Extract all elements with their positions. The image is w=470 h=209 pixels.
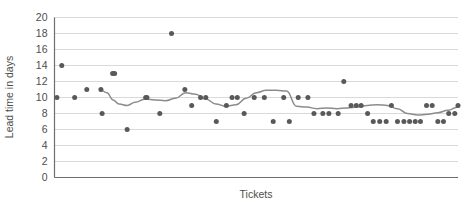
scatter-point [407,119,412,124]
scatter-point [252,95,257,100]
scatter-point [271,119,276,124]
scatter-point [359,103,364,108]
scatter-point [395,119,400,124]
scatter-point [125,127,130,132]
scatter-point [389,103,394,108]
scatter-point [456,103,461,108]
scatter-point [189,103,194,108]
scatter-point [157,111,162,116]
scatter-point [214,119,219,124]
scatter-point [169,31,174,36]
chart-canvas: 02468101214161820 Lead time in days Tick… [0,0,470,209]
scatter-point [59,63,64,68]
scatter-point [354,103,359,108]
scatter-point [401,119,406,124]
scatter-point [341,79,346,84]
scatter-point [349,103,354,108]
scatter-point [413,119,418,124]
y-axis-tick-label: 0 [42,171,48,183]
y-axis-tick-label: 12 [36,75,48,87]
scatter-point [84,87,89,92]
scatter-point [311,111,316,116]
scatter-point [182,87,187,92]
scatter-point [326,111,331,116]
trend-line-series [101,90,458,115]
scatter-point [262,95,267,100]
y-axis-tick-label: 18 [36,27,48,39]
scatter-point [203,95,208,100]
scatter-point [230,95,235,100]
y-axis-tick-label: 20 [36,11,48,23]
scatter-point [418,119,423,124]
scatter-point [287,119,292,124]
scatter-point [336,111,341,116]
scatter-point [54,95,59,100]
y-axis-tick-label: 6 [42,123,48,135]
scatter-point [100,111,105,116]
scatter-point [235,95,240,100]
scatter-point [144,95,149,100]
y-axis-tick-label: 2 [42,155,48,167]
y-axis-tick-label: 10 [36,91,48,103]
scatter-point [377,119,382,124]
scatter-point [371,119,376,124]
x-axis-title: Tickets [240,188,273,200]
scatter-point [72,95,77,100]
scatter-point [320,111,325,116]
scatter-point [452,111,457,116]
gridlines [55,18,459,162]
y-axis-tick-label: 14 [36,59,48,71]
y-axis-tick-label: 4 [42,139,48,151]
scatter-point [198,95,203,100]
scatter-point [281,95,286,100]
scatter-point [430,103,435,108]
scatter-point [441,119,446,124]
y-axis-tick-label: 8 [42,107,48,119]
scatter-point [365,111,370,116]
scatter-point [98,87,103,92]
y-axis-tick-label: 16 [36,43,48,55]
scatter-point [224,103,229,108]
scatter-point [112,71,117,76]
scatter-point [384,119,389,124]
scatter-chart: 02468101214161820 Lead time in days Tick… [0,0,470,209]
scatter-point [446,111,451,116]
scatter-point [296,95,301,100]
scatter-point [435,119,440,124]
scatter-point [424,103,429,108]
trend-line-path [101,90,458,115]
y-axis-tick-labels: 02468101214161820 [36,11,48,183]
y-axis-title: Lead time in days [3,56,15,138]
scatter-point [242,111,247,116]
scatter-point [305,95,310,100]
